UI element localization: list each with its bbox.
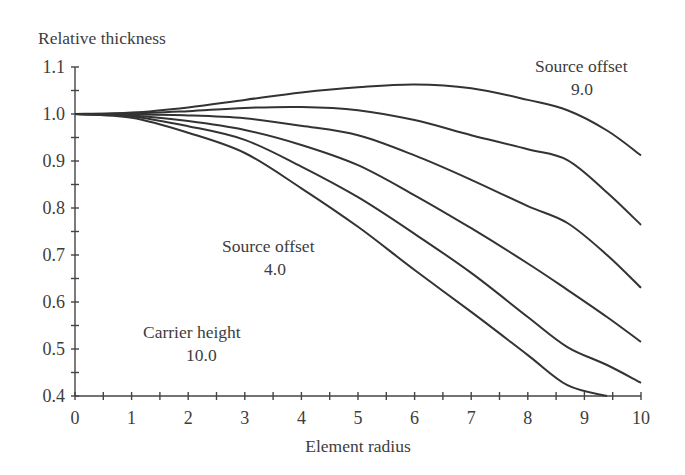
y-tick-label: 0.5 <box>43 339 66 359</box>
x-tick-label: 4 <box>297 408 306 428</box>
y-tick-label: 0.9 <box>43 151 66 171</box>
annotation-source-offset-4-value: 4.0 <box>264 259 286 279</box>
x-tick-label: 2 <box>184 408 193 428</box>
y-tick-label: 0.7 <box>43 245 66 265</box>
curve-series-6 <box>75 114 607 396</box>
y-tick-label: 0.6 <box>43 292 66 312</box>
curve-series-3 <box>75 114 641 288</box>
x-tick-label: 1 <box>127 408 136 428</box>
x-axis-title: Element radius <box>305 436 411 456</box>
annotation-source-offset-9-value: 9.0 <box>571 79 593 99</box>
y-axis-title: Relative thickness <box>38 28 166 48</box>
x-tick-label: 5 <box>354 408 363 428</box>
x-tick-label: 9 <box>580 408 589 428</box>
annotation-source-offset-4: Source offset <box>222 236 315 256</box>
y-tick-label: 0.8 <box>43 198 66 218</box>
annotation-source-offset-9: Source offset <box>535 56 628 76</box>
x-tick-label: 0 <box>71 408 80 428</box>
x-tick-label: 3 <box>240 408 249 428</box>
curve-series-5 <box>75 114 641 383</box>
x-tick-label: 6 <box>410 408 419 428</box>
annotation-carrier-height: Carrier height <box>143 322 241 342</box>
y-tick-label: 1.1 <box>43 57 66 77</box>
x-tick-label: 7 <box>467 408 476 428</box>
line-chart: Relative thickness 0123456789100.40.50.6… <box>0 0 685 475</box>
y-tick-label: 0.4 <box>43 386 66 406</box>
curves <box>75 84 641 396</box>
x-tick-label: 10 <box>632 408 650 428</box>
y-tick-label: 1.0 <box>43 104 66 124</box>
annotation-carrier-height-value: 10.0 <box>186 345 217 365</box>
x-tick-label: 8 <box>523 408 532 428</box>
